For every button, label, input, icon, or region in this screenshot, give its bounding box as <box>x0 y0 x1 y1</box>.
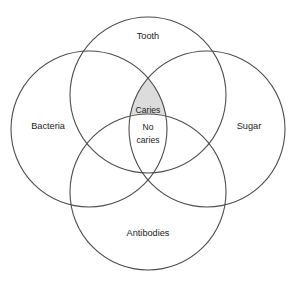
label-tooth: Tooth <box>137 31 159 41</box>
label-no-caries-line-1: No <box>143 122 154 132</box>
label-antibodies: Antibodies <box>127 228 170 238</box>
label-sugar: Sugar <box>237 121 262 131</box>
venn-diagram-figure: Tooth Bacteria Sugar Antibodies Caries N… <box>0 0 297 289</box>
venn-diagram-canvas: Tooth Bacteria Sugar Antibodies Caries N… <box>0 0 297 289</box>
label-caries-region: Caries <box>136 105 161 115</box>
label-no-caries-line-2: caries <box>137 135 160 145</box>
label-bacteria: Bacteria <box>31 121 66 131</box>
